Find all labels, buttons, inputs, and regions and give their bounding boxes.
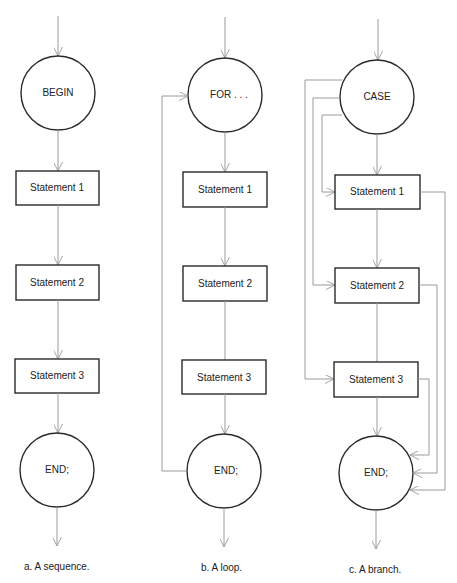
statement-2-label: Statement 2: [198, 278, 252, 289]
end-node: END;: [339, 436, 413, 510]
statement-2-label: Statement 2: [350, 280, 404, 291]
caption-loop: b. A loop.: [201, 562, 242, 573]
statement-2-box: Statement 2: [183, 266, 267, 301]
statement-3-label: Statement 3: [349, 374, 403, 385]
statement-1-box: Statement 1: [183, 172, 267, 207]
for-node: FOR . . .: [188, 58, 262, 132]
branch-arrow-3: [305, 80, 342, 379]
case-node: CASE: [340, 60, 414, 134]
case-label: CASE: [363, 91, 391, 102]
statement-3-label: Statement 3: [30, 370, 84, 381]
statement-3-box: Statement 3: [334, 362, 418, 397]
for-label: FOR . . .: [210, 89, 248, 100]
statement-1-label: Statement 1: [350, 186, 404, 197]
statement-3-box: Statement 3: [182, 360, 266, 394]
begin-label: BEGIN: [42, 87, 73, 98]
statement-2-label: Statement 2: [30, 277, 84, 288]
end-label: END;: [364, 467, 388, 478]
end-node: END;: [187, 434, 261, 508]
statement-3-label: Statement 3: [197, 372, 251, 383]
loop-diagram: FOR . . . Statement 1 Statement 2 Statem…: [162, 17, 267, 573]
begin-node: BEGIN: [21, 56, 95, 130]
branch-diagram: CASE Statement 1 Statement 2 Statement 3…: [305, 19, 445, 575]
return-arrow-1: [410, 192, 445, 490]
caption-branch: c. A branch.: [349, 564, 401, 575]
statement-1-label: Statement 1: [30, 182, 84, 193]
caption-sequence: a. A sequence.: [24, 561, 90, 572]
end-node: END;: [20, 433, 94, 507]
statement-1-box: Statement 1: [16, 171, 99, 205]
statement-1-label: Statement 1: [198, 184, 252, 195]
statement-2-box: Statement 2: [335, 268, 419, 303]
statement-2-box: Statement 2: [16, 265, 99, 300]
sequence-diagram: BEGIN Statement 1 Statement 2 Statement …: [15, 16, 99, 572]
end-label: END;: [45, 464, 69, 475]
statement-1-box: Statement 1: [335, 175, 420, 209]
statement-3-box: Statement 3: [15, 359, 99, 393]
end-label: END;: [214, 465, 238, 476]
